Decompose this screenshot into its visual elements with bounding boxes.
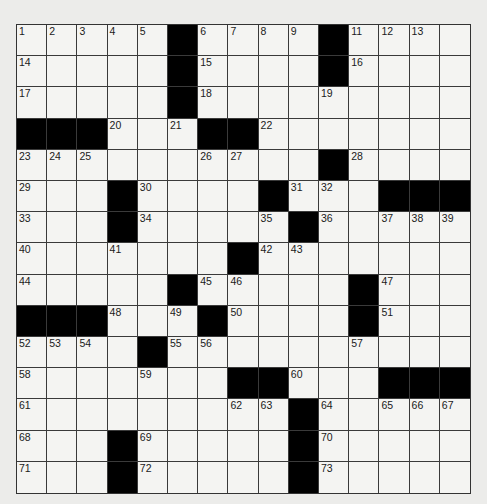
crossword-cell[interactable] (349, 212, 379, 243)
crossword-cell[interactable]: 33 (17, 212, 47, 243)
crossword-cell[interactable] (440, 150, 470, 181)
crossword-cell[interactable] (198, 431, 228, 462)
crossword-cell[interactable] (168, 181, 198, 212)
crossword-cell[interactable] (47, 56, 77, 87)
crossword-cell[interactable]: 63 (259, 399, 289, 430)
crossword-cell[interactable] (77, 431, 107, 462)
crossword-cell[interactable] (349, 243, 379, 274)
crossword-cell[interactable]: 44 (17, 275, 47, 306)
crossword-cell[interactable] (198, 181, 228, 212)
crossword-cell[interactable]: 23 (17, 150, 47, 181)
crossword-cell[interactable]: 48 (108, 306, 138, 337)
crossword-cell[interactable]: 71 (17, 462, 47, 493)
crossword-cell[interactable]: 3 (77, 25, 107, 56)
crossword-cell[interactable]: 18 (198, 87, 228, 118)
crossword-cell[interactable] (410, 87, 440, 118)
crossword-cell[interactable] (440, 25, 470, 56)
crossword-cell[interactable] (379, 87, 409, 118)
crossword-cell[interactable] (410, 431, 440, 462)
crossword-cell[interactable] (379, 150, 409, 181)
crossword-cell[interactable] (138, 150, 168, 181)
crossword-cell[interactable] (198, 368, 228, 399)
crossword-cell[interactable] (77, 181, 107, 212)
crossword-cell[interactable] (410, 150, 440, 181)
crossword-cell[interactable] (168, 243, 198, 274)
crossword-cell[interactable]: 29 (17, 181, 47, 212)
crossword-cell[interactable] (108, 368, 138, 399)
crossword-cell[interactable]: 51 (379, 306, 409, 337)
crossword-cell[interactable] (379, 243, 409, 274)
crossword-cell[interactable] (319, 306, 349, 337)
crossword-cell[interactable]: 4 (108, 25, 138, 56)
crossword-cell[interactable] (410, 243, 440, 274)
crossword-cell[interactable]: 41 (108, 243, 138, 274)
crossword-cell[interactable]: 28 (349, 150, 379, 181)
crossword-cell[interactable] (259, 275, 289, 306)
crossword-cell[interactable]: 22 (259, 119, 289, 150)
crossword-cell[interactable] (108, 56, 138, 87)
crossword-cell[interactable] (77, 212, 107, 243)
crossword-cell[interactable]: 40 (17, 243, 47, 274)
crossword-cell[interactable] (138, 119, 168, 150)
crossword-cell[interactable]: 9 (289, 25, 319, 56)
crossword-cell[interactable] (138, 275, 168, 306)
crossword-cell[interactable]: 14 (17, 56, 47, 87)
crossword-cell[interactable] (319, 337, 349, 368)
crossword-cell[interactable] (168, 212, 198, 243)
crossword-cell[interactable]: 25 (77, 150, 107, 181)
crossword-cell[interactable] (349, 119, 379, 150)
crossword-cell[interactable] (349, 87, 379, 118)
crossword-cell[interactable]: 8 (259, 25, 289, 56)
crossword-cell[interactable] (47, 368, 77, 399)
crossword-cell[interactable] (259, 150, 289, 181)
crossword-cell[interactable] (319, 243, 349, 274)
crossword-cell[interactable]: 36 (319, 212, 349, 243)
crossword-cell[interactable]: 21 (168, 119, 198, 150)
crossword-cell[interactable]: 55 (168, 337, 198, 368)
crossword-cell[interactable]: 58 (17, 368, 47, 399)
crossword-cell[interactable] (410, 119, 440, 150)
crossword-cell[interactable]: 39 (440, 212, 470, 243)
crossword-cell[interactable] (259, 56, 289, 87)
crossword-cell[interactable] (379, 462, 409, 493)
crossword-cell[interactable]: 46 (228, 275, 258, 306)
crossword-cell[interactable] (440, 431, 470, 462)
crossword-cell[interactable]: 13 (410, 25, 440, 56)
crossword-cell[interactable] (228, 431, 258, 462)
crossword-cell[interactable]: 59 (138, 368, 168, 399)
crossword-cell[interactable] (289, 337, 319, 368)
crossword-cell[interactable]: 43 (289, 243, 319, 274)
crossword-cell[interactable]: 6 (198, 25, 228, 56)
crossword-cell[interactable] (440, 119, 470, 150)
crossword-cell[interactable] (47, 181, 77, 212)
crossword-cell[interactable] (77, 462, 107, 493)
crossword-cell[interactable] (440, 56, 470, 87)
crossword-cell[interactable] (77, 243, 107, 274)
crossword-cell[interactable] (228, 56, 258, 87)
crossword-cell[interactable] (168, 462, 198, 493)
crossword-cell[interactable]: 24 (47, 150, 77, 181)
crossword-cell[interactable] (47, 212, 77, 243)
crossword-cell[interactable] (379, 431, 409, 462)
crossword-cell[interactable] (228, 462, 258, 493)
crossword-cell[interactable]: 57 (349, 337, 379, 368)
crossword-cell[interactable] (349, 462, 379, 493)
crossword-cell[interactable] (259, 87, 289, 118)
crossword-cell[interactable]: 1 (17, 25, 47, 56)
crossword-cell[interactable]: 66 (410, 399, 440, 430)
crossword-cell[interactable] (289, 306, 319, 337)
crossword-cell[interactable] (198, 399, 228, 430)
crossword-cell[interactable] (138, 87, 168, 118)
crossword-cell[interactable] (47, 275, 77, 306)
crossword-cell[interactable] (198, 243, 228, 274)
crossword-cell[interactable] (410, 56, 440, 87)
crossword-cell[interactable]: 53 (47, 337, 77, 368)
crossword-cell[interactable] (259, 306, 289, 337)
crossword-cell[interactable]: 17 (17, 87, 47, 118)
crossword-cell[interactable]: 62 (228, 399, 258, 430)
crossword-cell[interactable]: 27 (228, 150, 258, 181)
crossword-cell[interactable] (289, 275, 319, 306)
crossword-cell[interactable]: 54 (77, 337, 107, 368)
crossword-cell[interactable]: 70 (319, 431, 349, 462)
crossword-cell[interactable] (289, 56, 319, 87)
